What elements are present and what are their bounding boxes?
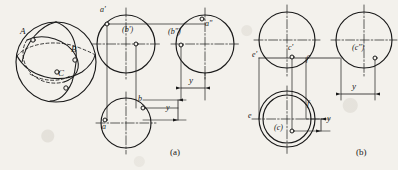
point-marker-a-double-prime: [200, 17, 204, 21]
point-marker-b-prime: [134, 42, 138, 46]
point-marker-c-double-prime: [373, 56, 377, 60]
sphere-meridian-right: [50, 22, 76, 101]
point-marker-c-top: [290, 129, 294, 133]
point-marker-A: [31, 38, 35, 42]
sphere-latitude-arc: [30, 74, 70, 80]
point-marker-extra: [64, 86, 68, 90]
point-marker-b-double-prime: [179, 43, 183, 47]
point-marker-B: [73, 58, 77, 62]
caption-b: (b): [356, 148, 367, 157]
point-marker-a-top: [103, 118, 107, 122]
diagram-a-group: [92, 8, 239, 154]
point-marker-b-top: [141, 106, 145, 110]
point-marker-c-prime: [290, 55, 294, 59]
sphere-equator-front: [17, 55, 95, 79]
point-marker-a-prime: [105, 22, 109, 26]
point-marker-C: [55, 70, 59, 74]
sphere-meridian-left: [22, 22, 56, 62]
sphere-outline: [16, 22, 96, 102]
diagram-b-group: [252, 5, 397, 154]
sphere-oblique-front: [27, 37, 78, 82]
sphere-pictorial-group: [16, 22, 96, 102]
caption-a: (a): [170, 148, 180, 157]
technical-drawing-figure: [0, 0, 398, 170]
